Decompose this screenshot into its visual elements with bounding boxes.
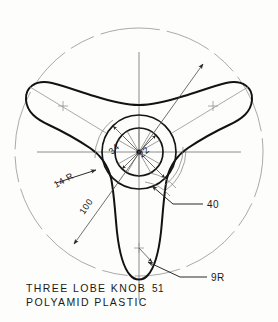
dim-label-40: 40 [207, 199, 219, 210]
lobe-radius-callout: 14 R [52, 170, 96, 190]
overall-diameter-dimension: 100 [74, 64, 203, 244]
technical-drawing-canvas: 34 22 [0, 0, 278, 322]
dim-label-34: 34 [107, 142, 122, 157]
title-line-2: POLYAMID PLASTIC [26, 296, 148, 308]
dim-label-100: 100 [77, 197, 95, 216]
fillet-radius-callout: 9R [148, 262, 225, 283]
lobe-axis-upper-left [30, 87, 106, 133]
part-number-label: 51 [152, 283, 164, 294]
title-line-1: THREE LOBE KNOB [26, 282, 146, 294]
dim-label-9r: 9R [211, 272, 225, 283]
lobe-axis-upper-right [172, 87, 248, 133]
dim-line-100 [74, 64, 203, 244]
bottom-lobe-radius-arrow [139, 248, 152, 262]
dim-label-14r: 14 R [52, 171, 75, 190]
lobe-width-callout: 40 [145, 173, 219, 210]
title-block: THREE LOBE KNOB POLYAMID PLASTIC 51 [26, 282, 164, 308]
lobe-center-mark-upper-right [208, 101, 218, 111]
drawing-sheet: 34 22 [0, 0, 278, 322]
